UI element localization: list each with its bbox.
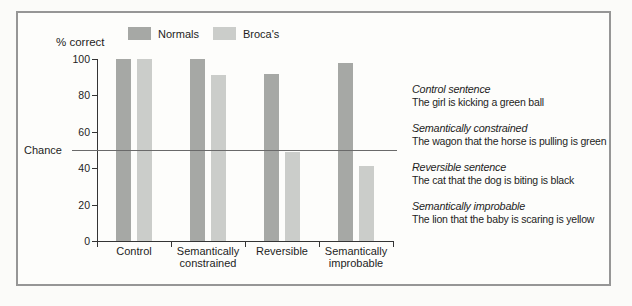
chance-label: Chance xyxy=(24,144,62,156)
chart-legend: NormalsBroca's xyxy=(128,27,279,40)
y-tick xyxy=(92,168,97,169)
x-tick xyxy=(319,241,320,247)
y-tick-label: 60 xyxy=(60,126,90,138)
sentence-type-label: Control sentence xyxy=(412,83,622,96)
y-tick-label: 40 xyxy=(60,162,90,174)
bar-brocas-1 xyxy=(211,75,226,241)
sentence-examples: Control sentenceThe girl is kicking a gr… xyxy=(412,83,622,239)
y-tick-label: 100 xyxy=(60,53,90,65)
y-tick-label: 20 xyxy=(60,199,90,211)
y-axis-title: % correct xyxy=(56,36,105,48)
bar-brocas-2 xyxy=(285,152,300,241)
sentence-type-label: Reversible sentence xyxy=(412,161,622,174)
x-tick xyxy=(171,241,172,247)
legend-swatch-icon xyxy=(128,27,151,40)
sentence-example: Semantically improbableThe lion that the… xyxy=(412,200,622,225)
legend-label: Normals xyxy=(158,28,199,40)
y-tick-label: 0 xyxy=(60,235,90,247)
x-tick xyxy=(245,241,246,247)
bar-normals-2 xyxy=(264,74,279,241)
y-tick xyxy=(92,59,97,60)
sentence-example: Reversible sentenceThe cat that the dog … xyxy=(412,161,622,186)
y-tick xyxy=(92,95,97,96)
x-category-label: Semantically improbable xyxy=(306,245,406,269)
example-sentence: The wagon that the horse is pulling is g… xyxy=(412,135,622,148)
example-sentence: The lion that the baby is scaring is yel… xyxy=(412,213,622,226)
y-tick xyxy=(92,132,97,133)
example-sentence: The girl is kicking a green ball xyxy=(412,96,622,109)
legend-swatch-icon xyxy=(213,27,236,40)
bar-normals-3 xyxy=(338,63,353,241)
legend-item-normals: Normals xyxy=(128,27,199,40)
sentence-type-label: Semantically improbable xyxy=(412,200,622,213)
x-tick xyxy=(97,241,98,247)
example-sentence: The cat that the dog is biting is black xyxy=(412,174,622,187)
sentence-example: Control sentenceThe girl is kicking a gr… xyxy=(412,83,622,108)
chance-line xyxy=(72,150,397,151)
x-tick xyxy=(393,241,394,247)
y-tick xyxy=(92,205,97,206)
bar-brocas-3 xyxy=(359,166,374,241)
sentence-type-label: Semantically constrained xyxy=(412,122,622,135)
figure-page: ControlSemantically constrainedReversibl… xyxy=(0,0,632,306)
legend-label: Broca's xyxy=(243,28,279,40)
legend-item-brocas: Broca's xyxy=(213,27,279,40)
y-tick-label: 80 xyxy=(60,89,90,101)
sentence-example: Semantically constrainedThe wagon that t… xyxy=(412,122,622,147)
